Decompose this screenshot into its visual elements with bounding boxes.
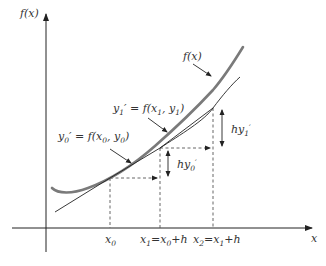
- euler-path: [55, 77, 240, 212]
- true-curve: [52, 47, 243, 193]
- fx-pointer: [193, 64, 211, 76]
- hy1-label: hy1′: [231, 123, 251, 138]
- euler-method-diagram: f(x) x f(x) y1′ = f(x1, y1) y0′ = f(x0, …: [0, 0, 326, 266]
- y1-prime-pointer: [148, 118, 167, 132]
- y-axis-label: f(x): [19, 7, 39, 20]
- hy0-label: hy0′: [177, 158, 197, 173]
- x0-tick-label: x0: [105, 233, 116, 248]
- curve-label: f(x): [182, 50, 202, 63]
- x-axis-label: x: [311, 232, 318, 245]
- euler-step-0: [110, 148, 160, 178]
- y0-prime-pointer: [110, 149, 131, 163]
- x2-tick-label: x2=x1+h: [193, 233, 241, 248]
- y0-prime-label: y0′ = f(x0, y0): [57, 130, 129, 145]
- y1-prime-label: y1′ = f(x1, y1): [112, 102, 184, 117]
- axes: [12, 14, 312, 252]
- x1-tick-label: x1=x0+h: [140, 233, 188, 248]
- tangent-at-x0: [55, 178, 110, 212]
